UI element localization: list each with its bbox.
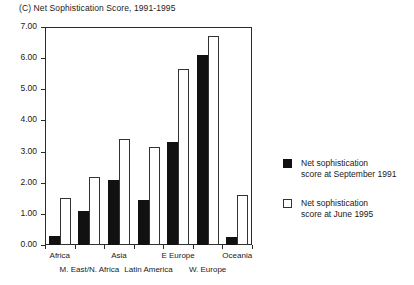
bar-group bbox=[193, 27, 223, 245]
bar-group bbox=[104, 27, 134, 245]
bar bbox=[89, 177, 100, 246]
y-axis-tick-label: 4.00 bbox=[20, 114, 37, 124]
bar bbox=[119, 139, 130, 245]
legend-swatch-hollow-icon bbox=[283, 199, 292, 208]
bar bbox=[226, 237, 237, 245]
bar bbox=[197, 55, 208, 245]
y-axis-tick-label: 5.00 bbox=[20, 83, 37, 93]
x-axis-label: Oceania bbox=[222, 251, 252, 260]
chart-container: (C) Net Sophistication Score, 1991-1995 … bbox=[0, 0, 414, 285]
bar bbox=[237, 195, 248, 245]
y-axis-tick-label: 1.00 bbox=[20, 208, 37, 218]
bar-group bbox=[222, 27, 252, 245]
legend-label-1995-line1: Net sophistication bbox=[301, 198, 368, 208]
x-axis-tick-mark bbox=[104, 245, 105, 249]
x-axis-tick-mark bbox=[75, 245, 76, 249]
y-axis-tick-label: 2.00 bbox=[20, 177, 37, 187]
x-axis-tick-mark bbox=[222, 245, 223, 249]
legend-label-1995: Net sophistication score at June 1995 bbox=[301, 198, 373, 220]
bar-group bbox=[45, 27, 75, 245]
bar bbox=[208, 36, 219, 245]
bar-group bbox=[75, 27, 105, 245]
legend-item-1995: Net sophistication score at June 1995 bbox=[283, 198, 411, 220]
bar bbox=[49, 236, 60, 245]
x-axis-label: Latin America bbox=[124, 265, 172, 274]
legend-label-1991-line2: score at September 1991 bbox=[301, 169, 396, 179]
bar-group bbox=[163, 27, 193, 245]
bar bbox=[60, 198, 71, 245]
legend-label-1995-line2: score at June 1995 bbox=[301, 209, 373, 219]
bar bbox=[78, 211, 89, 245]
legend-label-1991: Net sophistication score at September 19… bbox=[301, 158, 396, 180]
x-axis-tick-mark bbox=[252, 245, 253, 249]
bar-group bbox=[134, 27, 164, 245]
bar bbox=[138, 200, 149, 245]
y-axis-tick-label: 7.00 bbox=[20, 21, 37, 31]
chart-legend: Net sophistication score at September 19… bbox=[283, 158, 411, 238]
bar bbox=[178, 69, 189, 245]
x-axis-tick-mark bbox=[193, 245, 194, 249]
x-axis-label: Africa bbox=[50, 251, 70, 260]
chart-title: (C) Net Sophistication Score, 1991-1995 bbox=[19, 3, 176, 13]
y-axis: 0.001.002.003.004.005.006.007.00 bbox=[0, 27, 45, 245]
x-axis-labels-row-secondary: M. East/N. AfricaLatin AmericaW. Europe bbox=[45, 265, 252, 277]
bar-groups bbox=[45, 27, 252, 245]
x-axis-labels-row-primary: AfricaAsiaE EuropeOceania bbox=[45, 251, 252, 263]
y-axis-tick-label: 6.00 bbox=[20, 52, 37, 62]
bar bbox=[108, 180, 119, 245]
x-axis-label: E Europe bbox=[161, 251, 194, 260]
legend-item-1991: Net sophistication score at September 19… bbox=[283, 158, 411, 180]
x-axis-ticks bbox=[45, 245, 252, 250]
x-axis-tick-mark bbox=[163, 245, 164, 249]
y-axis-tick-label: 0.00 bbox=[20, 239, 37, 249]
x-axis-label: W. Europe bbox=[189, 265, 226, 274]
bar bbox=[167, 142, 178, 245]
x-axis-tick-mark bbox=[45, 245, 46, 249]
x-axis-label: Asia bbox=[111, 251, 127, 260]
x-axis-tick-mark bbox=[134, 245, 135, 249]
y-axis-tick-label: 3.00 bbox=[20, 146, 37, 156]
legend-swatch-filled-icon bbox=[283, 159, 292, 168]
bar bbox=[149, 147, 160, 245]
x-axis-label: M. East/N. Africa bbox=[60, 265, 120, 274]
legend-label-1991-line1: Net sophistication bbox=[301, 158, 368, 168]
